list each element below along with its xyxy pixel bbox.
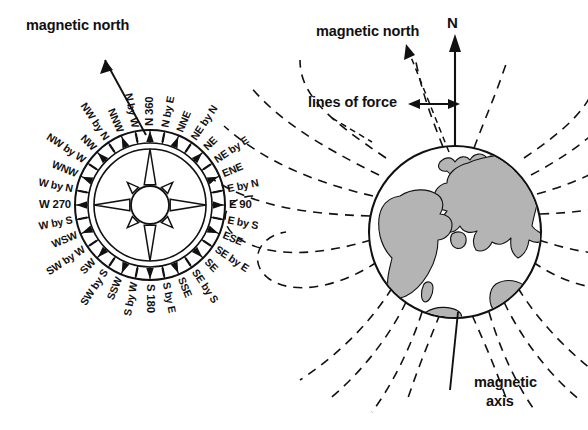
magnetic-axis-lower xyxy=(450,312,458,390)
figure-canvas: N 360N by ENNENE by NNENE by EENEE by NE… xyxy=(0,0,588,430)
earth-field-diagram: N magnetic north lines of force magnetic… xyxy=(0,0,588,430)
magnetic-axis-label-line2: axis xyxy=(486,393,514,409)
field-line-left-8 xyxy=(328,302,406,400)
magnetic-axis-upper xyxy=(404,44,449,152)
field-line-right-4 xyxy=(540,178,588,214)
field-line-top-right xyxy=(474,64,506,148)
geographic-north-axis xyxy=(449,34,461,147)
lines-of-force-label: lines of force xyxy=(308,94,397,110)
field-line-right-2 xyxy=(531,82,588,175)
field-line-left-4 xyxy=(214,180,370,216)
continent-arabia-icon xyxy=(451,232,467,249)
field-line-left-7 xyxy=(300,288,392,380)
field-line-right-7 xyxy=(518,288,588,382)
field-line-left-3 xyxy=(224,126,373,196)
field-line-right-3 xyxy=(537,124,588,194)
field-line-left-6 xyxy=(258,232,377,288)
field-line-bottom-left xyxy=(408,314,440,398)
field-line-left-5 xyxy=(225,196,371,253)
magnetic-axis-label-line1: magnetic xyxy=(474,374,537,390)
earth-magnetic-north-label: magnetic north xyxy=(316,23,419,39)
field-line-right-5 xyxy=(539,198,588,254)
field-line-right-1 xyxy=(524,58,588,158)
north-label: N xyxy=(447,14,458,31)
declination-arrow xyxy=(408,99,460,109)
field-line-left-9 xyxy=(372,312,422,412)
lines-of-force-leader xyxy=(332,118,372,142)
